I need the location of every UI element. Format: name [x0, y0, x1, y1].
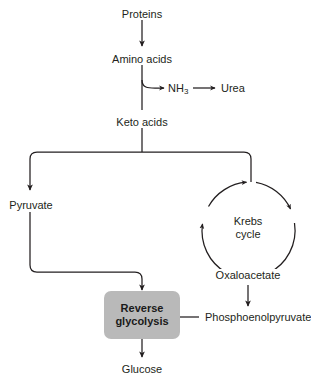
krebs-label-line2: cycle — [235, 228, 260, 240]
krebs-arc-left-lower — [202, 224, 226, 273]
ammonia-subscript: 3 — [184, 87, 188, 96]
arrow-pyruvate-to-reverse-glycolysis — [30, 212, 142, 290]
arrow-branch-to-ammonia — [142, 80, 164, 88]
node-proteins: Proteins — [120, 8, 164, 20]
node-phosphoenolpyruvate: Phosphoenolpyruvate — [203, 311, 311, 323]
line-keto-acids-to-krebs — [142, 152, 251, 182]
node-krebs-cycle: Krebscycle — [234, 215, 263, 241]
node-keto-acids: Keto acids — [114, 116, 169, 128]
reverse-glycolysis-line1: Reverse — [121, 302, 164, 315]
node-amino-acids: Amino acids — [110, 53, 174, 65]
krebs-arc-left-upper — [209, 182, 247, 206]
ammonia-formula: NH — [168, 82, 184, 94]
krebs-arc-right-lower — [268, 223, 295, 274]
reverse-glycolysis-line2: glycolysis — [115, 315, 168, 328]
krebs-arc-right-upper — [256, 182, 291, 209]
node-urea: Urea — [219, 82, 247, 94]
node-pyruvate: Pyruvate — [7, 199, 54, 211]
node-glucose: Glucose — [120, 363, 164, 375]
arrow-keto-acids-to-pyruvate — [30, 152, 142, 190]
node-ammonia: NH3 — [168, 82, 188, 94]
node-oxaloacetate: Oxaloacetate — [214, 269, 283, 281]
krebs-label-line1: Krebs — [234, 215, 263, 227]
node-reverse-glycolysis: Reverseglycolysis — [104, 291, 180, 339]
metabolic-pathway-diagram: Proteins Amino acids NH3 Urea Keto acids… — [0, 0, 311, 382]
